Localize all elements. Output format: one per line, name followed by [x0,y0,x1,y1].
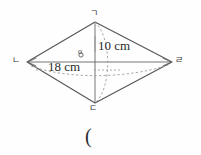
rhombus-diagram [0,0,201,155]
center-point-label: o [78,48,82,56]
horizontal-diagonal-measure-label: 18 cm [48,60,80,73]
vertical-diagonal-measure-label: 10 cm [98,39,130,52]
vertex-label-left: ㄴ [12,56,20,65]
vertex-label-right: ㄹ [175,56,183,65]
answer-parenthesis: ( [85,126,92,146]
vertex-label-top: ㄱ [90,9,98,18]
figure-screenshot: ㄱ ㄴ ㄷ ㄹ o 10 cm 18 cm ( [0,0,201,155]
dashed-ellipse-arc [95,22,108,103]
vertex-label-bottom: ㄷ [89,104,97,113]
